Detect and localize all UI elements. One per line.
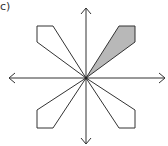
lower-right-kite (86, 78, 135, 128)
upper-left-kite (37, 26, 86, 78)
upper-right-kite-shaded (86, 26, 135, 78)
origin-point (85, 77, 88, 80)
diagram-canvas (0, 0, 168, 146)
lower-left-kite (37, 78, 86, 128)
